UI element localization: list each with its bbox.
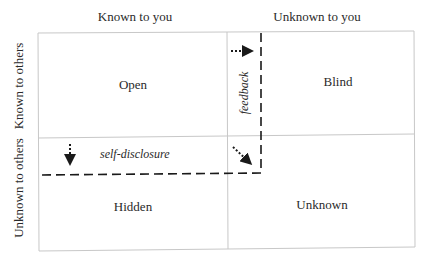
- vertical-divider: [227, 32, 228, 249]
- quadrant-blind: Blind: [324, 74, 353, 90]
- self-disclosure-label: self-disclosure: [100, 147, 170, 162]
- diagonal-arrow-icon: [233, 147, 250, 163]
- quadrant-open: Open: [119, 77, 147, 93]
- johari-grid: [0, 0, 433, 261]
- feedback-label: feedback: [237, 72, 252, 115]
- horizontal-divider: [38, 134, 414, 138]
- grid-border: [38, 31, 415, 251]
- quadrant-hidden: Hidden: [114, 199, 152, 215]
- quadrant-unknown: Unknown: [296, 197, 347, 213]
